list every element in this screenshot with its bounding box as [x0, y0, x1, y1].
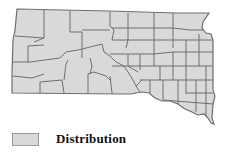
map-legend: Distribution [12, 130, 126, 148]
legend-swatch-distribution [12, 133, 39, 146]
legend-label-distribution: Distribution [56, 131, 126, 147]
state-county-map [0, 0, 226, 130]
